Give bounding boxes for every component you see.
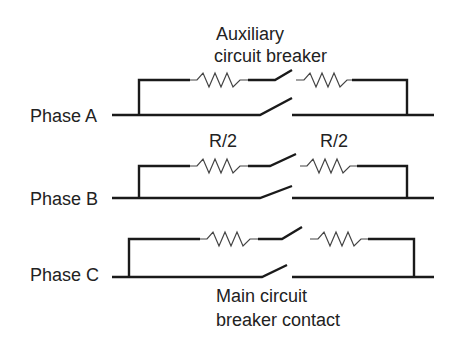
phase-a-label: Phase A [30, 106, 97, 126]
aux-breaker-label-line1: Auxiliary [216, 24, 284, 44]
breaker-diagram: Auxiliary circuit breaker R/2 R/2 Phase … [0, 0, 459, 348]
phase-c-circuit [112, 227, 434, 277]
main-contact-label-line1: Main circuit [216, 286, 307, 306]
phase-c-label: Phase C [30, 265, 99, 285]
aux-breaker-label-line2: circuit breaker [214, 46, 327, 66]
resistor-label-left: R/2 [209, 131, 237, 151]
resistor-label-right: R/2 [320, 131, 348, 151]
phase-a-circuit [112, 70, 434, 115]
main-contact-label-line2: breaker contact [216, 310, 340, 330]
phase-b-circuit [112, 154, 434, 198]
phase-b-label: Phase B [30, 189, 98, 209]
